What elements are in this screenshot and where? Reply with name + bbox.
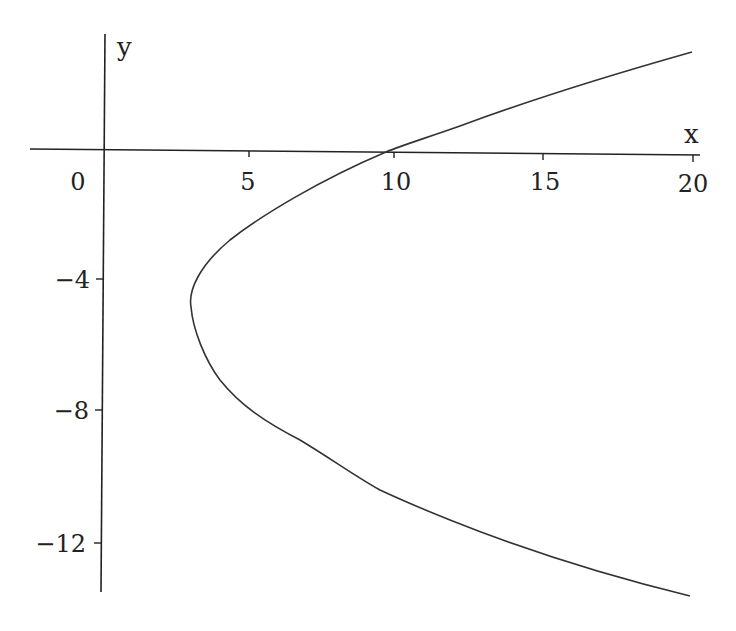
y-tick-label-m8: −8 xyxy=(54,397,89,425)
chart-plot-area: 0 5 10 15 20 −4 −8 −12 y x xyxy=(0,0,736,631)
x-tick-label-15: 15 xyxy=(530,168,561,196)
x-axis-label: x xyxy=(684,119,699,149)
y-tick-label-m4: −4 xyxy=(55,266,90,294)
x-tick-label-0: 0 xyxy=(70,168,85,196)
y-axis-line xyxy=(101,34,105,592)
y-tick-label-m12: −12 xyxy=(35,530,86,558)
x-tick-label-20: 20 xyxy=(678,170,709,198)
x-tick-label-5: 5 xyxy=(240,168,255,196)
x-tick-label-10: 10 xyxy=(381,168,412,196)
y-axis-label: y xyxy=(116,32,132,62)
parabola-curve xyxy=(191,52,692,596)
x-axis-line xyxy=(30,149,700,155)
